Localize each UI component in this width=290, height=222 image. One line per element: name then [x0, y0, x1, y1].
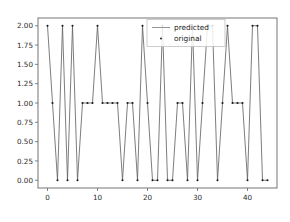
y-tick-label: 1.00 — [17, 99, 33, 108]
data-point — [156, 179, 158, 181]
x-tick-label: 10 — [93, 193, 103, 202]
x-tick-label: 30 — [193, 193, 203, 202]
data-point — [151, 179, 153, 181]
x-tick-label: 40 — [243, 193, 253, 202]
data-point — [66, 179, 68, 181]
data-point — [71, 25, 73, 27]
data-point — [201, 102, 203, 104]
chart-legend: predicted original — [147, 20, 225, 47]
data-point — [141, 25, 143, 27]
data-point — [126, 102, 128, 104]
data-point — [251, 25, 253, 27]
y-tick-label: 0.00 — [17, 176, 33, 185]
data-point — [216, 179, 218, 181]
y-tick-label: 2.00 — [17, 21, 33, 30]
x-tick-label: 20 — [143, 193, 153, 202]
data-point — [231, 102, 233, 104]
data-point — [236, 102, 238, 104]
y-tick-label: 0.50 — [17, 137, 33, 146]
data-point — [61, 25, 63, 27]
x-tick-label: 0 — [45, 193, 50, 202]
data-point — [186, 179, 188, 181]
data-point — [246, 179, 248, 181]
data-point — [196, 179, 198, 181]
legend-dot-swatch — [160, 38, 162, 40]
matplotlib-figure: 0.000.250.500.751.001.251.501.752.00 010… — [0, 0, 290, 222]
data-point — [121, 179, 123, 181]
y-tick-label: 1.50 — [17, 60, 33, 69]
data-point — [181, 102, 183, 104]
data-point — [266, 179, 268, 181]
data-point — [76, 179, 78, 181]
data-point — [171, 179, 173, 181]
data-point — [136, 179, 138, 181]
y-tick-label: 1.75 — [17, 41, 33, 50]
line-chart: 0.000.250.500.751.001.251.501.752.00 010… — [0, 0, 290, 222]
data-point — [96, 25, 98, 27]
data-point — [146, 102, 148, 104]
data-point — [56, 179, 58, 181]
data-point — [46, 25, 48, 27]
legend-label-original: original — [174, 34, 202, 43]
y-tick-label: 1.25 — [17, 79, 33, 88]
data-point — [116, 102, 118, 104]
data-point — [176, 102, 178, 104]
data-point — [221, 102, 223, 104]
data-point — [81, 102, 83, 104]
data-point — [226, 25, 228, 27]
data-point — [241, 102, 243, 104]
data-point — [106, 102, 108, 104]
data-point — [256, 25, 258, 27]
figure-background — [0, 0, 290, 222]
data-point — [166, 179, 168, 181]
data-point — [51, 102, 53, 104]
legend-label-predicted: predicted — [174, 23, 209, 32]
y-tick-label: 0.75 — [17, 118, 33, 127]
y-tick-label: 0.25 — [17, 157, 33, 166]
data-point — [261, 179, 263, 181]
data-point — [86, 102, 88, 104]
data-point — [101, 102, 103, 104]
data-point — [111, 102, 113, 104]
data-point — [91, 102, 93, 104]
data-point — [131, 102, 133, 104]
